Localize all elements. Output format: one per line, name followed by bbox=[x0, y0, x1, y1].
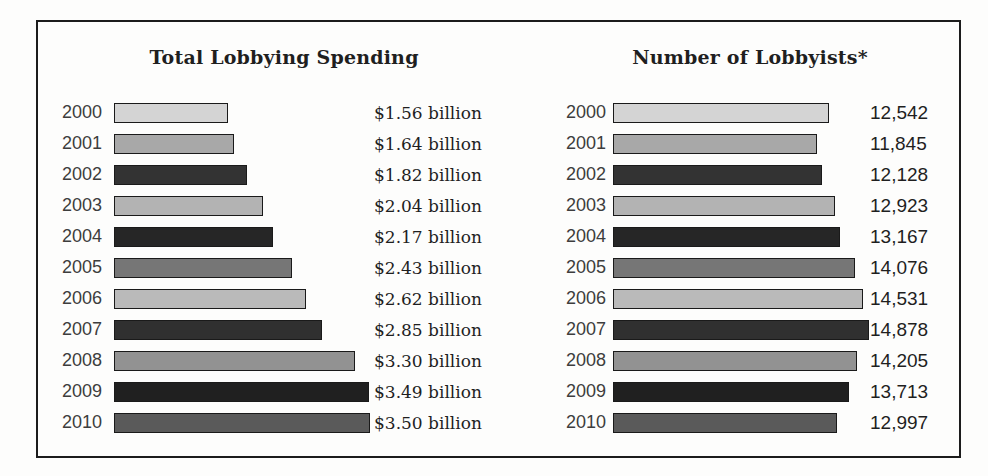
value-label: $1.56 billion bbox=[374, 103, 482, 123]
value-label: $3.49 billion bbox=[374, 382, 482, 402]
year-label: 2010 bbox=[541, 412, 613, 433]
bar bbox=[114, 196, 263, 216]
chart-row: 200413,167 bbox=[541, 221, 957, 252]
bar bbox=[613, 320, 869, 340]
figure-page: Total Lobbying Spending 2000$1.56 billio… bbox=[0, 0, 988, 476]
value-label: 14,878 bbox=[870, 319, 928, 341]
year-label: 2008 bbox=[541, 350, 613, 371]
bar bbox=[114, 227, 273, 247]
value-label: $3.50 billion bbox=[374, 413, 482, 433]
bar bbox=[613, 351, 857, 371]
bar-track bbox=[613, 103, 869, 123]
chart-row: 200212,128 bbox=[541, 159, 957, 190]
value-label: $2.04 billion bbox=[374, 196, 482, 216]
chart-row: 200814,205 bbox=[541, 345, 957, 376]
chart-row: 2005$2.43 billion bbox=[38, 252, 508, 283]
value-label: $1.82 billion bbox=[374, 165, 482, 185]
value-label: $2.17 billion bbox=[374, 227, 482, 247]
bar-track bbox=[114, 258, 370, 278]
bar bbox=[613, 289, 863, 309]
bar bbox=[613, 134, 817, 154]
bar bbox=[613, 196, 835, 216]
bar-track bbox=[613, 320, 869, 340]
value-label: $2.62 billion bbox=[374, 289, 482, 309]
chart-row: 200514,076 bbox=[541, 252, 957, 283]
value-label: 14,076 bbox=[870, 257, 928, 279]
value-label: 12,542 bbox=[870, 102, 928, 124]
year-label: 2003 bbox=[38, 195, 114, 216]
bar-track bbox=[114, 165, 370, 185]
bar-track bbox=[613, 134, 869, 154]
bar bbox=[613, 165, 822, 185]
bar-track bbox=[613, 351, 869, 371]
year-label: 2000 bbox=[541, 102, 613, 123]
chart-frame: Total Lobbying Spending 2000$1.56 billio… bbox=[36, 20, 961, 458]
value-label: 14,531 bbox=[870, 288, 928, 310]
bar-track bbox=[613, 196, 869, 216]
bar-track bbox=[114, 351, 370, 371]
chart-total-lobbying-spending: Total Lobbying Spending 2000$1.56 billio… bbox=[38, 22, 508, 456]
chart-number-of-lobbyists: Number of Lobbyists* 200012,542200111,84… bbox=[541, 22, 957, 456]
bar-track bbox=[613, 165, 869, 185]
bar-track bbox=[613, 289, 869, 309]
year-label: 2002 bbox=[38, 164, 114, 185]
value-label: $2.43 billion bbox=[374, 258, 482, 278]
year-label: 2002 bbox=[541, 164, 613, 185]
bar bbox=[613, 382, 849, 402]
chart-row: 200111,845 bbox=[541, 128, 957, 159]
chart-row: 200012,542 bbox=[541, 97, 957, 128]
year-label: 2005 bbox=[38, 257, 114, 278]
chart-title-total-lobbying-spending: Total Lobbying Spending bbox=[117, 44, 451, 70]
chart-row: 200714,878 bbox=[541, 314, 957, 345]
chart-row: 2009$3.49 billion bbox=[38, 376, 508, 407]
chart-title-number-of-lobbyists: Number of Lobbyists* bbox=[583, 44, 917, 70]
year-label: 2003 bbox=[541, 195, 613, 216]
chart-rows-spending: 2000$1.56 billion2001$1.64 billion2002$1… bbox=[38, 97, 508, 438]
value-label: $3.30 billion bbox=[374, 351, 482, 371]
year-label: 2007 bbox=[38, 319, 114, 340]
bar bbox=[114, 382, 369, 402]
chart-row: 2004$2.17 billion bbox=[38, 221, 508, 252]
bar bbox=[114, 103, 228, 123]
bar-track bbox=[613, 258, 869, 278]
year-label: 2008 bbox=[38, 350, 114, 371]
bar bbox=[114, 134, 234, 154]
chart-row: 200312,923 bbox=[541, 190, 957, 221]
bar bbox=[114, 320, 322, 340]
bar bbox=[613, 413, 837, 433]
year-label: 2009 bbox=[38, 381, 114, 402]
bar-track bbox=[114, 134, 370, 154]
chart-row: 2007$2.85 billion bbox=[38, 314, 508, 345]
bar-track bbox=[114, 289, 370, 309]
value-label: 13,713 bbox=[870, 381, 928, 403]
chart-row: 2000$1.56 billion bbox=[38, 97, 508, 128]
bar-track bbox=[613, 227, 869, 247]
bar-track bbox=[613, 382, 869, 402]
value-label: 11,845 bbox=[870, 133, 927, 155]
year-label: 2004 bbox=[541, 226, 613, 247]
year-label: 2006 bbox=[541, 288, 613, 309]
year-label: 2009 bbox=[541, 381, 613, 402]
value-label: 12,128 bbox=[870, 164, 928, 186]
year-label: 2001 bbox=[541, 133, 613, 154]
value-label: 14,205 bbox=[870, 350, 928, 372]
year-label: 2004 bbox=[38, 226, 114, 247]
value-label: $1.64 billion bbox=[374, 134, 482, 154]
bar-track bbox=[114, 103, 370, 123]
year-label: 2001 bbox=[38, 133, 114, 154]
chart-row: 2008$3.30 billion bbox=[38, 345, 508, 376]
value-label: 12,997 bbox=[870, 412, 928, 434]
chart-row: 201012,997 bbox=[541, 407, 957, 438]
bar bbox=[613, 227, 840, 247]
chart-row: 2010$3.50 billion bbox=[38, 407, 508, 438]
bar bbox=[114, 258, 292, 278]
bar-track bbox=[613, 413, 869, 433]
bar bbox=[613, 103, 829, 123]
value-label: 13,167 bbox=[870, 226, 928, 248]
bar bbox=[114, 165, 247, 185]
bar-track bbox=[114, 413, 370, 433]
bar-track bbox=[114, 382, 370, 402]
chart-row: 2003$2.04 billion bbox=[38, 190, 508, 221]
year-label: 2010 bbox=[38, 412, 114, 433]
bar bbox=[114, 413, 370, 433]
